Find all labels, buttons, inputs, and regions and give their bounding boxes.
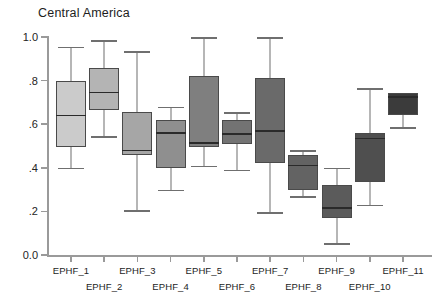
upper-whisker-cap xyxy=(58,47,84,49)
upper-whisker-stem xyxy=(270,37,271,78)
x-axis-category-label: EPHF_7 xyxy=(252,265,289,276)
box-iqr-rect xyxy=(322,185,352,218)
lower-whisker-cap xyxy=(124,210,150,212)
box-plot-item[interactable] xyxy=(89,0,119,306)
box-plot-item[interactable] xyxy=(388,0,418,306)
x-axis-category-label: EPHF_4 xyxy=(152,281,189,292)
upper-whisker-cap xyxy=(357,88,383,90)
median-line xyxy=(156,132,186,134)
box-plot-item[interactable] xyxy=(222,0,252,306)
y-axis-tick-label: .6 xyxy=(4,118,38,130)
lower-whisker-stem xyxy=(137,155,138,211)
x-axis-category-label: EPHF_9 xyxy=(318,265,355,276)
y-axis-tick-mark xyxy=(41,211,47,213)
y-axis-tick-mark xyxy=(41,167,47,169)
y-axis-tick-mark xyxy=(41,36,47,38)
lower-whisker-cap xyxy=(224,170,250,172)
lower-whisker-cap xyxy=(91,136,117,138)
y-axis-tick-label: 0.0 xyxy=(4,249,38,261)
median-line xyxy=(288,165,318,167)
upper-whisker-cap xyxy=(124,51,150,53)
x-axis-category-label: EPHF_11 xyxy=(382,265,423,276)
lower-whisker-cap xyxy=(324,243,350,245)
box-plot-item[interactable] xyxy=(288,0,318,306)
box-iqr-rect xyxy=(156,120,186,168)
lower-whisker-cap xyxy=(390,127,416,129)
median-line xyxy=(388,96,418,98)
median-line xyxy=(255,130,285,132)
upper-whisker-stem xyxy=(369,88,370,133)
x-axis-category-label: EPHF_3 xyxy=(119,265,156,276)
lower-whisker-stem xyxy=(203,147,204,166)
plot-area: 1.0.8.6.4.20.0 EPHF_1EPHF_2EPHF_3EPHF_4E… xyxy=(0,0,440,306)
lower-whisker-stem xyxy=(170,168,171,190)
y-axis-tick-label: 1.0 xyxy=(4,31,38,43)
y-axis-tick-label: .8 xyxy=(4,75,38,87)
upper-whisker-stem xyxy=(104,40,105,67)
lower-whisker-stem xyxy=(336,218,337,243)
upper-whisker-stem xyxy=(203,37,204,76)
x-axis-category-label: EPHF_5 xyxy=(186,265,223,276)
upper-whisker-cap xyxy=(158,107,184,109)
upper-whisker-cap xyxy=(191,37,217,39)
x-axis-category-label: EPHF_6 xyxy=(219,281,256,292)
median-line xyxy=(322,207,352,209)
lower-whisker-cap xyxy=(158,190,184,192)
y-axis-tick-label: .4 xyxy=(4,162,38,174)
x-axis-category-label: EPHF_8 xyxy=(285,281,322,292)
box-plot-item[interactable] xyxy=(255,0,285,306)
median-line xyxy=(222,133,252,135)
upper-whisker-stem xyxy=(71,47,72,81)
box-plot-item[interactable] xyxy=(122,0,152,306)
median-line xyxy=(355,138,385,140)
box-iqr-rect xyxy=(89,68,119,111)
lower-whisker-stem xyxy=(270,163,271,212)
median-line xyxy=(122,150,152,152)
upper-whisker-cap xyxy=(290,150,316,152)
x-axis-category-label: EPHF_2 xyxy=(86,281,123,292)
x-axis-category-label: EPHF_10 xyxy=(349,281,391,292)
box-plot-item[interactable] xyxy=(189,0,219,306)
box-plot-chart: Central America 1.0.8.6.4.20.0 EPHF_1EPH… xyxy=(0,0,440,306)
lower-whisker-cap xyxy=(357,205,383,207)
y-axis-tick-mark xyxy=(41,80,47,82)
upper-whisker-stem xyxy=(170,107,171,120)
upper-whisker-cap xyxy=(91,40,117,42)
box-iqr-rect xyxy=(189,76,219,147)
lower-whisker-cap xyxy=(191,166,217,168)
x-axis-category-label: EPHF_1 xyxy=(53,265,90,276)
upper-whisker-stem xyxy=(137,51,138,112)
box-plot-item[interactable] xyxy=(56,0,86,306)
upper-whisker-cap xyxy=(257,37,283,39)
y-axis-tick-mark xyxy=(41,254,47,256)
y-axis-tick-label: .2 xyxy=(4,205,38,217)
upper-whisker-cap xyxy=(224,112,250,114)
box-iqr-rect xyxy=(288,155,318,190)
box-plot-item[interactable] xyxy=(322,0,352,306)
y-axis-line xyxy=(47,36,49,256)
box-iqr-rect xyxy=(222,120,252,144)
box-plot-item[interactable] xyxy=(355,0,385,306)
y-axis-tick-mark xyxy=(41,123,47,125)
lower-whisker-cap xyxy=(257,212,283,214)
box-iqr-rect xyxy=(122,112,152,155)
median-line xyxy=(189,142,219,144)
lower-whisker-stem xyxy=(403,115,404,127)
lower-whisker-cap xyxy=(58,168,84,170)
median-line xyxy=(56,115,86,117)
median-line xyxy=(89,92,119,94)
lower-whisker-stem xyxy=(369,182,370,205)
lower-whisker-stem xyxy=(104,110,105,136)
box-plot-item[interactable] xyxy=(156,0,186,306)
upper-whisker-stem xyxy=(336,168,337,185)
lower-whisker-cap xyxy=(290,196,316,198)
box-iqr-rect xyxy=(255,78,285,163)
upper-whisker-cap xyxy=(324,168,350,170)
lower-whisker-stem xyxy=(71,147,72,168)
box-iqr-rect xyxy=(355,133,385,182)
lower-whisker-stem xyxy=(237,144,238,170)
